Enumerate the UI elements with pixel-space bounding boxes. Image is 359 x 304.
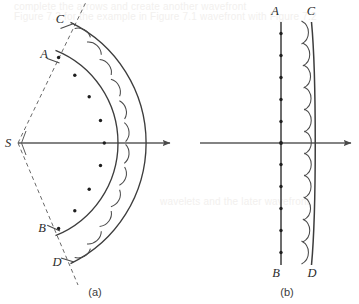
panel-a: C A B D S (a) [5, 2, 170, 298]
panel-b: A C B D (b) [200, 4, 351, 298]
label-B-panel-a: B [38, 221, 46, 235]
label-A-panel-b: A [270, 4, 279, 18]
label-D-panel-a: D [51, 255, 61, 269]
label-C-panel-b: C [307, 4, 316, 18]
figure-container: complete the arrows and create another w… [0, 0, 359, 304]
caption-panel-a: (a) [88, 286, 101, 298]
diagram-svg: C A B D S (a) [0, 0, 359, 304]
label-C-panel-a: C [56, 12, 65, 26]
caption-panel-b: (b) [280, 286, 293, 298]
label-D-panel-b: D [306, 266, 316, 280]
label-A-panel-a: A [39, 47, 48, 61]
label-S-source: S [5, 136, 12, 150]
dashed-ray-lower [18, 143, 78, 285]
dashed-ray-upper [18, 2, 86, 143]
label-B-panel-b: B [272, 266, 280, 280]
